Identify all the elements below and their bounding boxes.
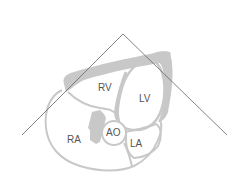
- label-la: LA: [130, 138, 143, 149]
- label-lv: LV: [139, 93, 151, 104]
- sector-outline: [22, 34, 227, 135]
- label-ao: AO: [106, 127, 121, 138]
- label-ra: RA: [67, 134, 81, 145]
- echo-diagram: RV LV RA AO LA: [0, 0, 248, 186]
- label-rv: RV: [98, 82, 112, 93]
- heart-diagram-svg: RV LV RA AO LA: [0, 0, 248, 186]
